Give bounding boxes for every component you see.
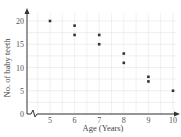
data-point (49, 20, 52, 23)
x-axis-label: Age (Years) (83, 123, 124, 133)
data-point (147, 76, 150, 79)
y-tick-label: 20 (16, 17, 24, 26)
y-tick-label: 10 (16, 64, 24, 73)
x-tick-label: 5 (48, 116, 52, 125)
x-tick-label: 10 (169, 116, 177, 125)
grid-lines (27, 13, 176, 114)
axes (25, 8, 181, 117)
data-point (73, 34, 76, 37)
data-point (123, 62, 126, 65)
y-tick-label: 15 (16, 40, 24, 49)
y-tick-labels: 05101520 (16, 17, 24, 119)
data-point (98, 43, 101, 46)
data-point (98, 34, 101, 37)
x-tick-label: 9 (146, 116, 150, 125)
y-axis-label: No. of baby teeth (2, 38, 12, 98)
y-tick-label: 5 (20, 87, 24, 96)
data-point (147, 80, 150, 83)
y-tick-label: 0 (20, 110, 24, 119)
data-point (172, 89, 175, 92)
data-point (73, 24, 76, 27)
scatter-chart: 5678910 05101520 Age (Years) No. of baby… (0, 0, 180, 137)
y-axis-arrow-icon (25, 8, 30, 14)
data-point (123, 52, 126, 55)
x-tick-label: 6 (73, 116, 77, 125)
